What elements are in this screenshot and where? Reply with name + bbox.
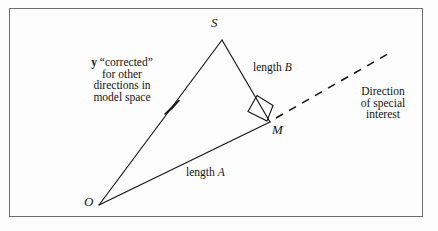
annotation-corrected-line-1: y “corrected” <box>62 57 182 69</box>
geometry-figure: S O M length B length A y “corrected” fo… <box>0 0 438 231</box>
vertex-label-origin: O <box>84 196 93 207</box>
annotation-direction-line-1: Direction <box>345 86 421 98</box>
annotation-direction-line-3: interest <box>345 109 421 121</box>
annotation-corrected-line-1-rest: “corrected” <box>97 56 153 68</box>
vertex-label-apex: S <box>211 17 218 28</box>
segment-apex-to-foot <box>222 40 270 122</box>
right-angle-square-icon <box>248 96 273 122</box>
segment-label-a-symbol: A <box>218 166 225 178</box>
segment-label-b-symbol: B <box>285 61 292 73</box>
segment-label-b-prefix: length <box>253 61 285 73</box>
segment-origin-to-foot <box>99 122 270 205</box>
annotation-corrected-vector: y “corrected” for other directions in mo… <box>62 57 182 103</box>
annotation-direction-of-interest: Direction of special interest <box>345 86 421 121</box>
annotation-corrected-line-4: model space <box>62 92 182 104</box>
vertex-label-foot: M <box>272 124 283 135</box>
segment-label-b: length B <box>253 62 292 73</box>
segment-label-a: length A <box>186 167 225 178</box>
segment-label-a-prefix: length <box>186 166 218 178</box>
